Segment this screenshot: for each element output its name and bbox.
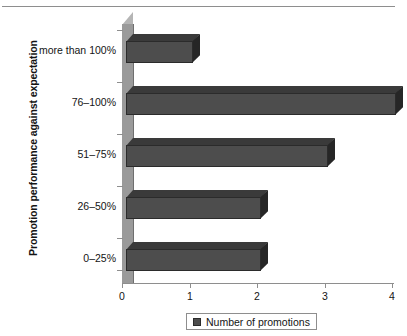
bar-front-face xyxy=(126,197,261,219)
y-axis-tick-mark xyxy=(117,82,123,83)
x-axis-tick-mark xyxy=(257,283,258,288)
y-axis-tick-mark xyxy=(117,270,123,271)
x-axis-line xyxy=(122,283,394,284)
y-axis-tick-label: 26–50% xyxy=(8,200,116,212)
x-axis-tick-label: 2 xyxy=(242,290,272,302)
bar-51-75[interactable] xyxy=(126,138,335,160)
y-axis-tick-mark xyxy=(117,238,123,239)
bar-front-face xyxy=(126,145,328,167)
x-axis-tick-label: 4 xyxy=(377,290,407,302)
y-axis-tick-label: more than 100% xyxy=(8,44,116,56)
y-axis-tick-mark xyxy=(117,30,123,31)
bar-front-face xyxy=(126,93,396,115)
x-axis-tick-label: 3 xyxy=(310,290,340,302)
bar-76-100[interactable] xyxy=(126,86,403,108)
chart-legend[interactable]: Number of promotions xyxy=(186,313,317,330)
bar-front-face xyxy=(126,41,193,63)
y-axis-tick-label: 76–100% xyxy=(8,96,116,108)
bar-0-25[interactable] xyxy=(126,242,268,264)
y-axis-tick-label: 51–75% xyxy=(8,148,116,160)
x-axis-tick-mark xyxy=(392,283,393,288)
x-axis-tick-mark xyxy=(325,283,326,288)
x-axis-tick-label: 0 xyxy=(107,290,137,302)
x-axis-tick-label: 1 xyxy=(175,290,205,302)
y-axis-tick-label: 0–25% xyxy=(8,252,116,264)
legend-color-swatch-icon xyxy=(193,318,201,326)
legend-label: Number of promotions xyxy=(206,316,310,328)
y-axis-tick-mark xyxy=(117,134,123,135)
x-axis-tick-mark xyxy=(190,283,191,288)
y-axis-tick-labels: more than 100% 76–100% 51–75% 26–50% 0–2… xyxy=(6,0,116,336)
bar-26-50[interactable] xyxy=(126,190,268,212)
x-axis-tick-mark xyxy=(122,283,123,288)
plot-area xyxy=(122,12,394,283)
y-axis-tick-mark xyxy=(117,186,123,187)
bar-front-face xyxy=(126,249,261,271)
bar-more-than-100[interactable] xyxy=(126,34,200,56)
